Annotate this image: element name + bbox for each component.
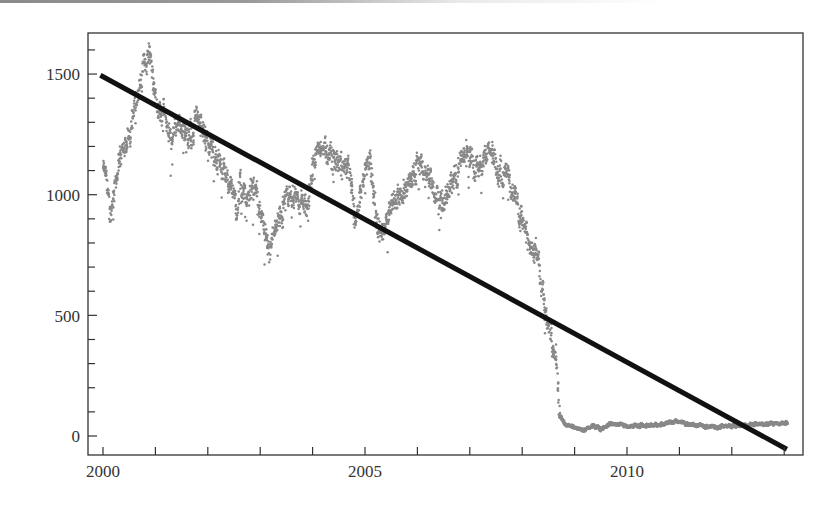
- data-point: [460, 165, 463, 168]
- data-point: [366, 173, 369, 176]
- data-point: [332, 181, 335, 184]
- data-point: [153, 82, 156, 85]
- plot-frame: [88, 33, 803, 455]
- data-point: [278, 221, 281, 224]
- data-point: [320, 151, 323, 154]
- data-point: [525, 225, 528, 228]
- data-point: [508, 176, 511, 179]
- data-point: [169, 128, 172, 131]
- data-point: [276, 224, 279, 227]
- data-point: [131, 125, 134, 128]
- data-point: [474, 159, 477, 162]
- data-point: [279, 225, 282, 228]
- data-point: [267, 240, 270, 243]
- data-point: [525, 228, 528, 231]
- data-point: [495, 160, 498, 163]
- data-point: [236, 217, 239, 220]
- data-point: [507, 166, 510, 169]
- data-point: [386, 251, 389, 254]
- data-point: [240, 184, 243, 187]
- data-point: [175, 134, 178, 137]
- data-point: [140, 74, 143, 77]
- data-point: [129, 130, 132, 133]
- data-point: [557, 399, 560, 402]
- data-point: [474, 179, 477, 182]
- data-point: [277, 212, 280, 215]
- data-point: [112, 206, 115, 209]
- data-point: [239, 172, 242, 175]
- data-point: [472, 166, 475, 169]
- data-point: [538, 275, 541, 278]
- data-point: [403, 192, 406, 195]
- data-point: [424, 166, 427, 169]
- data-point: [230, 187, 233, 190]
- data-point: [258, 233, 261, 236]
- data-point: [414, 176, 417, 179]
- data-point: [406, 195, 409, 198]
- data-point: [310, 182, 313, 185]
- data-point: [556, 372, 559, 375]
- data-point: [282, 218, 285, 221]
- data-point: [448, 195, 451, 198]
- data-point: [223, 163, 226, 166]
- data-point: [252, 199, 255, 202]
- data-point: [161, 124, 164, 127]
- data-point: [306, 215, 309, 218]
- data-point: [117, 173, 120, 176]
- data-point: [125, 150, 128, 153]
- data-point: [374, 191, 377, 194]
- data-point: [123, 155, 126, 158]
- data-point: [420, 153, 423, 156]
- data-point: [544, 332, 547, 335]
- data-point: [233, 197, 236, 200]
- data-point: [199, 121, 202, 124]
- data-point: [538, 264, 541, 267]
- data-point: [330, 146, 333, 149]
- data-point: [516, 197, 519, 200]
- data-point: [304, 210, 307, 213]
- data-point: [276, 219, 279, 222]
- data-point: [467, 176, 470, 179]
- data-point: [517, 203, 520, 206]
- data-point: [307, 207, 310, 210]
- data-point: [415, 155, 418, 158]
- data-point: [378, 220, 381, 223]
- data-point: [535, 249, 538, 252]
- data-point: [406, 190, 409, 193]
- data-point: [239, 169, 242, 172]
- data-point: [330, 153, 333, 156]
- data-point: [270, 246, 273, 249]
- scatter-points: [102, 42, 789, 433]
- data-point: [112, 192, 115, 195]
- data-point: [510, 198, 512, 201]
- data-point: [476, 156, 479, 159]
- data-point: [455, 164, 458, 167]
- data-point: [152, 77, 155, 80]
- x-tick-label-2010: 2010: [610, 462, 644, 481]
- data-point: [382, 238, 385, 241]
- data-point: [548, 331, 551, 334]
- data-point: [531, 242, 534, 245]
- data-point: [245, 219, 248, 222]
- data-point: [112, 218, 115, 221]
- data-point: [404, 185, 407, 188]
- data-point: [193, 111, 196, 114]
- data-point: [479, 154, 482, 157]
- data-point: [288, 197, 291, 200]
- data-point: [411, 180, 414, 183]
- data-point: [293, 207, 296, 210]
- data-point: [168, 122, 171, 125]
- data-point: [290, 190, 293, 193]
- data-point: [185, 132, 188, 135]
- data-point: [440, 192, 443, 195]
- data-point: [213, 180, 216, 183]
- data-point: [432, 185, 435, 188]
- data-point: [550, 340, 553, 343]
- data-point: [555, 355, 558, 358]
- data-point: [206, 139, 209, 142]
- data-point: [189, 118, 192, 121]
- data-point: [439, 199, 442, 202]
- data-point: [553, 354, 556, 357]
- data-point: [522, 219, 525, 222]
- data-point: [387, 223, 390, 226]
